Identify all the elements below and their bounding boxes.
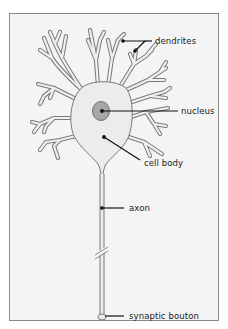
synaptic-bouton-graphic bbox=[98, 314, 106, 320]
synaptic-bouton-label: synaptic bouton bbox=[129, 312, 199, 321]
axon-graphic bbox=[95, 174, 108, 318]
cell-body-graphic bbox=[71, 82, 132, 176]
dendrites-label: dendrites bbox=[155, 37, 196, 46]
leader-lines bbox=[101, 40, 178, 316]
neuron bbox=[32, 30, 170, 320]
axon-label: axon bbox=[129, 204, 150, 213]
neuron-diagram bbox=[0, 0, 228, 329]
nucleus-label: nucleus bbox=[181, 107, 215, 116]
cell-body-label: cell body bbox=[144, 159, 183, 168]
